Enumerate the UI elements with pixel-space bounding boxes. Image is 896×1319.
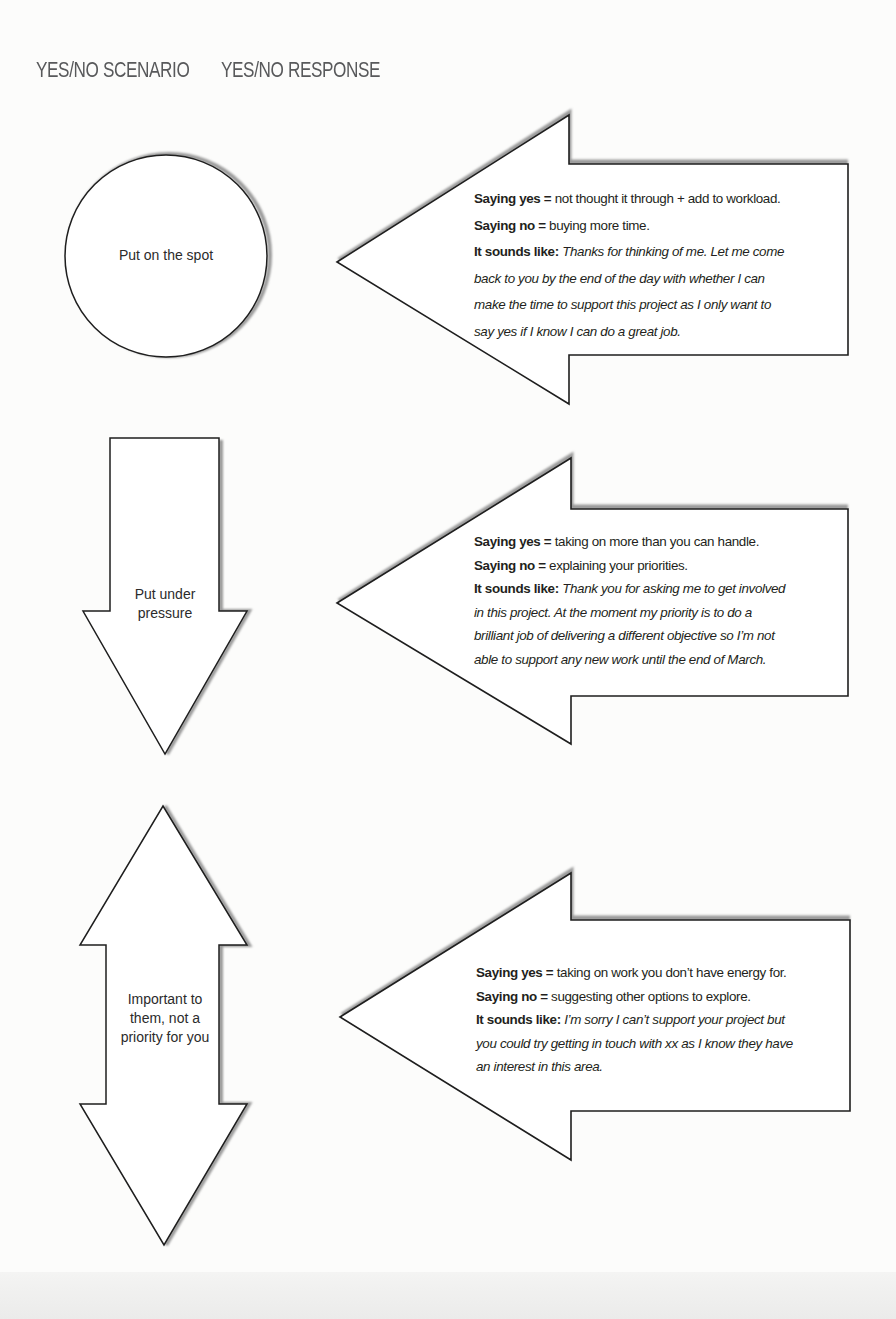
sounds-like-line: you could try getting in touch with xx a… <box>476 1032 793 1056</box>
sounds-like-text: able to support any new work until the e… <box>474 652 766 667</box>
saying-no-text: suggesting other options to explore. <box>548 989 751 1004</box>
sounds-like-line: It sounds like: Thanks for thinking of m… <box>474 239 784 266</box>
saying-yes-line: Saying yes = taking on work you don’t ha… <box>476 961 793 985</box>
sounds-like-text: Thank you for asking me to get involved <box>559 581 785 596</box>
sounds-like-text: an interest in this area. <box>476 1059 603 1074</box>
saying-no-text: buying more time. <box>546 218 650 233</box>
saying-yes-label: Saying yes = <box>476 965 553 980</box>
saying-no-line: Saying no = suggesting other options to … <box>476 985 793 1009</box>
sounds-like-text: Thanks for thinking of me. Let me come <box>559 244 784 259</box>
sounds-like-line: brilliant job of delivering a different … <box>474 624 785 648</box>
sounds-like-line: an interest in this area. <box>476 1055 793 1079</box>
scenario-label-2: Put under pressure <box>95 585 235 623</box>
sounds-like-line: make the time to support this project as… <box>474 292 784 319</box>
sounds-like-label: It sounds like: <box>474 244 559 259</box>
response-text-1: Saying yes = not thought it through + ad… <box>474 186 784 345</box>
scenario-label-line: Put on the spot <box>86 246 246 265</box>
sounds-like-text: brilliant job of delivering a different … <box>474 628 775 643</box>
scenario-label-line: Important to <box>95 990 235 1009</box>
sounds-like-text: you could try getting in touch with xx a… <box>476 1036 793 1051</box>
saying-no-text: explaining your priorities. <box>546 558 688 573</box>
saying-yes-label: Saying yes = <box>474 191 551 206</box>
saying-yes-line: Saying yes = not thought it through + ad… <box>474 186 784 213</box>
sounds-like-text: say yes if I know I can do a great job. <box>474 324 681 339</box>
sounds-like-text: I’m sorry I can’t support your project b… <box>561 1012 785 1027</box>
response-text-2: Saying yes = taking on more than you can… <box>474 530 785 671</box>
scenario-label-line: pressure <box>95 604 235 623</box>
scenario-label-line: them, not a <box>95 1009 235 1028</box>
sounds-like-text: make the time to support this project as… <box>474 297 771 312</box>
response-text-3: Saying yes = taking on work you don’t ha… <box>476 961 793 1079</box>
saying-yes-label: Saying yes = <box>474 534 551 549</box>
saying-yes-line: Saying yes = taking on more than you can… <box>474 530 785 554</box>
saying-yes-text: not thought it through + add to workload… <box>551 191 780 206</box>
sounds-like-line: able to support any new work until the e… <box>474 648 785 672</box>
sounds-like-line: in this project. At the moment my priori… <box>474 601 785 625</box>
saying-yes-text: taking on more than you can handle. <box>551 534 759 549</box>
sounds-like-line: back to you by the end of the day with w… <box>474 266 784 293</box>
sounds-like-text: in this project. At the moment my priori… <box>474 605 752 620</box>
sounds-like-line: It sounds like: I’m sorry I can’t suppor… <box>476 1008 793 1032</box>
sounds-like-text: back to you by the end of the day with w… <box>474 271 765 286</box>
sounds-like-label: It sounds like: <box>476 1012 561 1027</box>
saying-no-line: Saying no = buying more time. <box>474 213 784 240</box>
saying-no-line: Saying no = explaining your priorities. <box>474 554 785 578</box>
scenario-label-3: Important to them, not a priority for yo… <box>95 990 235 1047</box>
sounds-like-line: say yes if I know I can do a great job. <box>474 319 784 346</box>
scenario-label-1: Put on the spot <box>86 246 246 265</box>
sounds-like-line: It sounds like: Thank you for asking me … <box>474 577 785 601</box>
scenario-label-line: Put under <box>95 585 235 604</box>
scenario-label-line: priority for you <box>95 1028 235 1047</box>
saying-no-label: Saying no = <box>474 218 546 233</box>
sounds-like-label: It sounds like: <box>474 581 559 596</box>
saying-no-label: Saying no = <box>476 989 548 1004</box>
saying-yes-text: taking on work you don’t have energy for… <box>553 965 786 980</box>
saying-no-label: Saying no = <box>474 558 546 573</box>
